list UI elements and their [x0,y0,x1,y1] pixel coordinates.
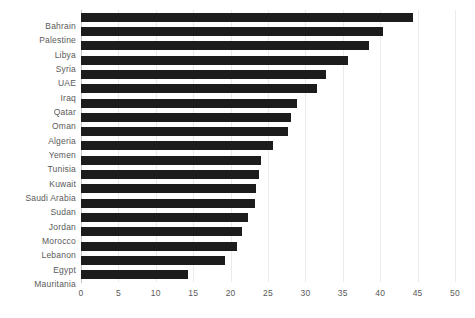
bar-row [81,139,273,153]
bar [81,199,255,208]
y-axis-category-label: Oman [0,121,76,132]
y-axis-category-label: Kuwait [0,179,76,190]
gridline [380,10,381,282]
gridline [418,10,419,282]
bar-row [81,225,242,239]
y-axis-category-label: Egypt [0,265,76,276]
bar [81,27,383,36]
y-axis-category-label: Libya [0,50,76,61]
bar [81,184,256,193]
bar [81,13,413,22]
y-axis-category-label: Yemen [0,150,76,161]
y-axis-category-label: Algeria [0,136,76,147]
y-axis-category-label: Tunisia [0,164,76,175]
bar-row [81,268,188,282]
bar [81,141,273,150]
bar [81,113,291,122]
bar [81,99,297,108]
bar-row [81,153,261,167]
bar-row [81,24,383,38]
x-axis-tick-label: 15 [188,288,198,299]
bar [81,127,288,136]
x-axis-tick-label: 45 [413,288,423,299]
bar-row [81,253,225,267]
y-axis-category-label: Morocco [0,236,76,247]
bar-chart: BahrainPalestineLibyaSyriaUAEIraqQatarOm… [0,0,475,318]
x-axis-tick-label: 0 [79,288,84,299]
y-axis-category-label: Lebanon [0,250,76,261]
x-axis-tick-labels: 05101520253035404550 [0,288,475,304]
bar-row [81,96,297,110]
bar [81,84,317,93]
bar [81,227,242,236]
bar-row [81,53,348,67]
bar-row [81,67,326,81]
bar-row [81,182,256,196]
bar-row [81,239,237,253]
bar-row [81,110,291,124]
x-axis-tick-label: 20 [226,288,236,299]
bar-row [81,82,317,96]
bar [81,213,248,222]
x-axis-tick-label: 40 [375,288,385,299]
bar [81,41,369,50]
y-axis-category-label: Iraq [0,93,76,104]
bar [81,170,259,179]
bar [81,270,188,279]
x-axis-tick-label: 35 [338,288,348,299]
y-axis-category-label: Syria [0,64,76,75]
y-axis-category-label: Qatar [0,107,76,118]
y-axis-category-label: Bahrain [0,21,76,32]
bar [81,70,326,79]
bar-row [81,167,259,181]
y-axis-category-label: Saudi Arabia [0,193,76,204]
bar [81,156,261,165]
bar [81,242,237,251]
x-axis-tick-label: 25 [263,288,273,299]
bar-row [81,10,413,24]
y-axis-category-label: Sudan [0,207,76,218]
y-axis-category-label: Jordan [0,222,76,233]
x-axis-tick-label: 10 [151,288,161,299]
x-axis-tick-label: 50 [450,288,460,299]
bar [81,256,225,265]
bar [81,56,348,65]
bar-row [81,39,369,53]
y-axis-category-label: Palestine [0,35,76,46]
gridline [455,10,456,282]
y-axis-category-label: UAE [0,78,76,89]
bar-row [81,125,288,139]
y-axis-category-labels: BahrainPalestineLibyaSyriaUAEIraqQatarOm… [0,10,76,282]
x-axis-tick-label: 5 [116,288,121,299]
bar-row [81,210,248,224]
bar-row [81,196,255,210]
x-axis-tick-label: 30 [300,288,310,299]
